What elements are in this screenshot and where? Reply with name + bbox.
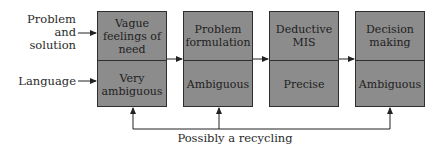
feedback-label: Possibly a recycling (0, 131, 440, 145)
connector-arrows (0, 0, 440, 151)
